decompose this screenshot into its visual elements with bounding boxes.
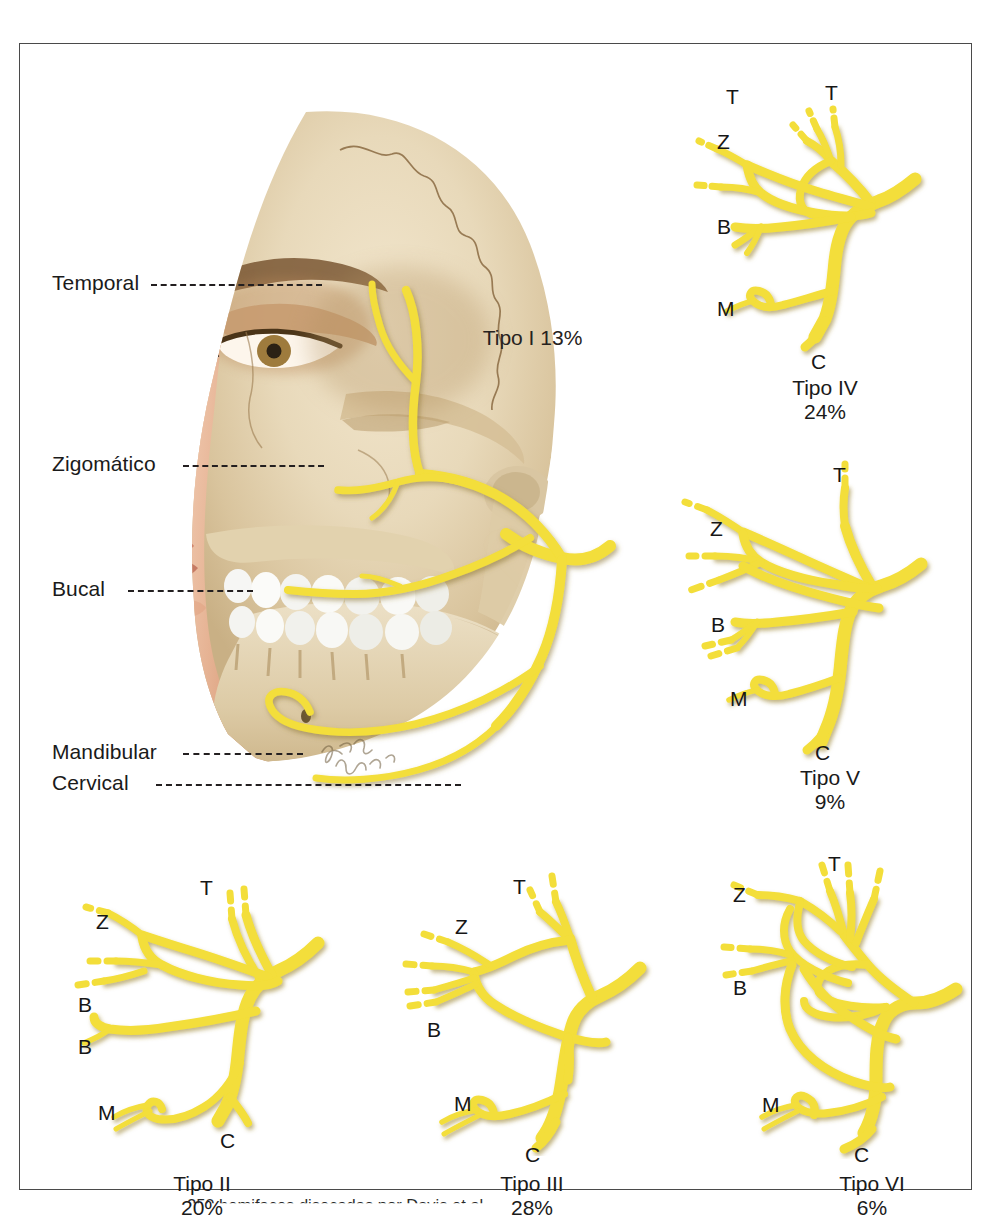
facial-anatomy-illustration [110,94,670,824]
letter-M-tipo-2: M [98,1102,116,1123]
caption-tipo-4: Tipo IV 24% [765,376,885,425]
leader-cervical [156,784,461,786]
letter-B-upper-tipo-2: B [78,994,92,1015]
meatus-inner [565,480,595,516]
letter-B-tipo-3: B [427,1019,441,1040]
letter-T-tipo-5: T [833,464,846,485]
letter-M-tipo-3: M [454,1093,472,1114]
label-cervical: Cervical [52,772,129,793]
letter-C-tipo-3: C [525,1144,540,1165]
label-mandibular: Mandibular [52,741,157,762]
ear-helix [598,430,648,582]
letter-Z-tipo-5: Z [710,518,723,539]
letter-C-tipo-2: C [220,1130,235,1151]
letter-B-lower-tipo-2: B [78,1036,92,1057]
leader-temporal [151,284,322,286]
ear-antihelix [602,476,624,552]
caption-tipo-5: Tipo V 9% [770,766,890,815]
caption-tipo-1-percent: 13% [540,326,582,349]
letter-M-tipo-5: M [730,688,748,709]
letter-T-label-tipo-4: T [825,82,838,103]
letter-Z-tipo-6: Z [733,884,746,905]
letter-M-tipo-4: M [717,298,735,319]
diagram-tipo-3 [378,856,668,1156]
letter-B-tipo-4: B [717,216,731,237]
figure-caption-clipped: 250 hemifaces disecadas por Davis et al. [19,1196,972,1216]
ear [572,411,667,618]
head-skull-nerve-drawing [110,94,670,824]
external-auditory-meatus [558,473,602,523]
diagram-tipo-4 [665,89,955,379]
letter-C-tipo-4: C [811,351,826,372]
letter-B-tipo-5: B [711,614,725,635]
label-temporal: Temporal [52,272,139,293]
leader-bucal [128,590,253,592]
letter-B-tipo-6: B [733,977,747,998]
letter-Z-tipo-3: Z [455,916,468,937]
caption-tipo-3-name: Tipo III [500,1172,563,1195]
caption-tipo-4-name: Tipo IV [792,376,858,399]
caption-tipo-1-name: Tipo I [483,326,535,349]
caption-tipo-2-name: Tipo II [173,1172,231,1195]
caption-tipo-5-percent: 9% [770,790,890,814]
letter-T-tipo-6: T [828,853,841,874]
caption-tipo-1: Tipo I 13% [475,325,590,350]
leader-zigomatico [183,465,324,467]
label-bucal: Bucal [52,578,105,599]
letter-Z-tipo-4: Z [717,131,730,152]
pupil [267,344,282,359]
label-zigomatico: Zigomático [52,453,156,474]
neck-skin [260,748,670,824]
letter-T-tipo-2: T [200,877,213,898]
temporal-fossa [308,266,492,414]
diagram-tipo-5 [665,456,955,766]
figure-caption-text: 250 hemifaces disecadas por Davis et al. [187,1196,488,1215]
letter-Z-tipo-2: Z [96,911,109,932]
figure-frame: Temporal Zigomático Bucal Mandibular Cer… [19,43,972,1190]
leader-mandibular [183,753,303,755]
letter-C-tipo-5: C [815,742,830,763]
upper-lip [158,537,194,555]
letter-M-tipo-6: M [762,1094,780,1115]
nostril [156,486,184,507]
caption-tipo-5-name: Tipo V [800,766,860,789]
eyelashes [190,328,218,364]
letter-T-tipo-4: T [726,86,739,107]
caption-tipo-4-percent: 24% [765,400,885,424]
caption-tipo-6-name: Tipo VI [839,1172,905,1195]
letter-T-tipo-3: T [513,876,526,897]
letter-C-tipo-6: C [854,1144,869,1165]
